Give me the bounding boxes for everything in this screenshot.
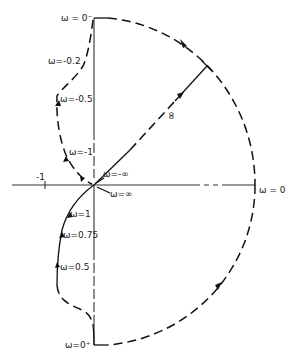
label-omega-neg-0-5: ω=-0.5 (60, 94, 93, 104)
leader-omega-inf (97, 187, 110, 193)
label-omega-0-5: ω=0.5 (60, 262, 89, 272)
nyquist-diagram: -1 ∞ (0, 0, 293, 359)
radius-infinity-label: ∞ (165, 111, 178, 120)
arrow-icon (215, 282, 222, 290)
label-omega-0: ω = 0 (259, 185, 286, 195)
label-omega-neg-0-2: ω=-0.2 (48, 56, 81, 66)
label-omega-inf: ω=∞ (110, 189, 133, 199)
label-omega-1: ω=1 (70, 209, 91, 219)
label-omega-neg-1: ω=-1 (69, 147, 93, 157)
label-omega-neg-inf: ω=-∞ (103, 169, 129, 179)
real-axis: -1 (12, 172, 255, 189)
radius-line: ∞ (94, 61, 212, 185)
tick-label-minus-one: -1 (36, 172, 45, 182)
label-omega-0-minus: ω = 0⁻ (61, 13, 93, 23)
label-omega-0-plus: ω=0⁺ (65, 340, 91, 350)
infinite-semicircle (108, 18, 255, 345)
arrow-icon (80, 176, 85, 182)
label-omega-0-75: ω=0.75 (63, 230, 98, 240)
